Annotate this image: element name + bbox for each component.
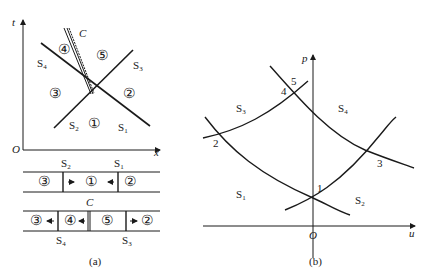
region-2: ② — [123, 88, 136, 99]
label-s1: S1 — [118, 122, 128, 137]
point-1: 1 — [317, 183, 323, 194]
tube-contact-label: C — [86, 197, 93, 208]
region-4: ④ — [58, 44, 71, 55]
t-axis-label: t — [12, 17, 15, 28]
tube1-region-1: ① — [85, 176, 98, 187]
x-axis-label: x — [154, 147, 159, 158]
tube-after — [23, 211, 160, 231]
p-axis-label: p — [302, 53, 308, 64]
contact-label-top: C — [79, 28, 86, 39]
tube2-region-3: ③ — [30, 215, 43, 226]
region-1: ① — [88, 118, 101, 129]
tube2-region-2: ② — [141, 215, 154, 226]
point-4: 4 — [281, 86, 287, 97]
curve-s3 — [203, 81, 308, 138]
tube-label-s2: S2 — [61, 158, 71, 173]
caption-a: (a) — [89, 256, 101, 267]
tube-label-s3: S3 — [122, 235, 132, 250]
label-s3: S3 — [133, 60, 143, 75]
tube2-region-5: ⑤ — [101, 215, 114, 226]
point-3: 3 — [377, 158, 383, 169]
tube-label-s4: S4 — [56, 235, 66, 250]
tube1-region-3: ③ — [38, 176, 51, 187]
region-b-s1: S1 — [236, 189, 246, 204]
region-b-s3: S3 — [236, 103, 246, 118]
caption-b: (b) — [309, 256, 322, 267]
tube1-region-2: ② — [124, 176, 137, 187]
label-s2: S2 — [69, 120, 79, 135]
region-3: ③ — [49, 88, 62, 99]
u-axis-label-2: u — [409, 228, 415, 239]
label-s4: S4 — [37, 58, 47, 73]
origin-b: O — [309, 230, 317, 241]
origin-a: O — [12, 144, 20, 155]
region-5: ⑤ — [96, 50, 109, 61]
region-b-s2: S2 — [355, 195, 365, 210]
region-b-s4: S4 — [338, 103, 348, 118]
point-2: 2 — [213, 138, 219, 149]
tube2-region-4: ④ — [64, 215, 77, 226]
contact-line — [64, 28, 91, 94]
tube-label-s1: S1 — [114, 158, 124, 173]
point-5: 5 — [291, 76, 297, 87]
